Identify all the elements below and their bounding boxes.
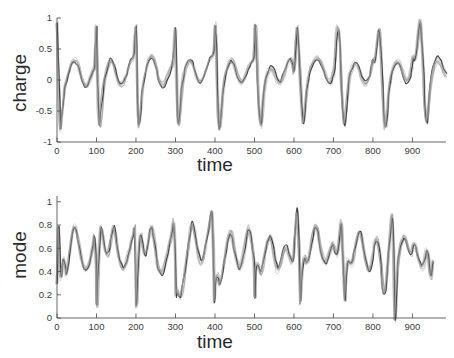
data-trace	[56, 210, 432, 316]
y-tick-label: -0.5	[36, 105, 52, 116]
x-tick-label: 900	[405, 145, 421, 156]
x-tick-label: 800	[365, 321, 381, 332]
y-tick-label: 0	[47, 312, 52, 323]
x-tick-label: 600	[286, 145, 302, 156]
y-tick-label: 0.4	[39, 266, 52, 277]
panel-mode: mode time 10.80.60.40.200100200300400500…	[0, 180, 454, 358]
figure-container: charge time 10.50-0.5-101002003004005006…	[0, 0, 454, 358]
panel-charge: charge time 10.50-0.5-101002003004005006…	[0, 0, 454, 180]
y-tick-label: 0.2	[39, 289, 52, 300]
trace-group	[56, 208, 434, 324]
y-tick-label: 0.8	[39, 219, 52, 230]
x-tick-label: 600	[286, 321, 302, 332]
y-tick-label: 1	[47, 196, 52, 207]
data-trace	[56, 212, 432, 319]
x-tick-label: 700	[326, 145, 342, 156]
x-tick-label: 900	[405, 321, 421, 332]
trace-group	[56, 19, 447, 132]
x-tick-label: 100	[89, 145, 105, 156]
y-tick-label: -1	[44, 136, 52, 147]
plot-charge: 10.50-0.5-10100200300400500600700800900	[0, 0, 454, 180]
x-tick-label: 0	[54, 321, 59, 332]
x-tick-label: 700	[326, 321, 342, 332]
y-tick-label: 0.6	[39, 243, 52, 254]
y-tick-label: 1	[47, 12, 52, 23]
x-tick-label: 200	[128, 321, 144, 332]
data-trace	[57, 19, 446, 131]
y-axis-label-charge: charge	[9, 45, 31, 121]
x-axis-label-charge: time	[160, 154, 270, 176]
y-tick-label: 0	[47, 74, 52, 85]
data-trace	[57, 208, 433, 320]
x-tick-label: 800	[365, 145, 381, 156]
data-trace	[57, 208, 434, 319]
x-tick-label: 100	[89, 321, 105, 332]
x-tick-label: 0	[54, 145, 59, 156]
data-trace	[56, 20, 445, 128]
y-tick-label: 0.5	[39, 43, 52, 54]
x-tick-label: 200	[128, 145, 144, 156]
x-axis-label-mode: time	[160, 331, 270, 353]
data-trace	[57, 208, 433, 319]
y-axis-label-mode: mode	[9, 219, 31, 291]
